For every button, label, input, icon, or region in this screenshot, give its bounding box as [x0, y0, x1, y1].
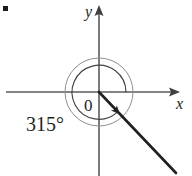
x-axis-label: x — [176, 96, 183, 112]
item-bullet-icon — [3, 6, 8, 11]
diagram-canvas — [0, 0, 192, 176]
angle-diagram: y x 0 315° — [0, 0, 192, 176]
angle-measure-label: 315° — [26, 114, 64, 134]
origin-label: 0 — [84, 97, 93, 114]
terminal-ray — [99, 92, 176, 173]
y-axis-label: y — [85, 4, 92, 20]
